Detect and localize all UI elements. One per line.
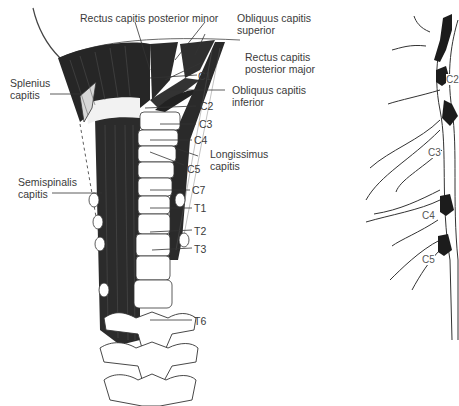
label-splenius-capitis-line1: Splenius [10, 77, 50, 89]
label-rectus-capitis-posterior-major-line1: Rectus capitis [245, 51, 310, 63]
label-longissimus-capitis-line1: Longissimus [210, 148, 268, 160]
label-obliquus-capitis-inferior-line2: inferior [232, 96, 264, 108]
label-rectus-capitis-posterior-major-line2: posterior major [245, 63, 315, 75]
label-c2: C2 [200, 100, 213, 112]
label-rectus-capitis-posterior-minor: Rectus capitis posterior minor [80, 12, 218, 24]
label-c3: C3 [199, 118, 212, 130]
label-nerve-c3: C3 [428, 147, 441, 158]
label-t6: T6 [194, 315, 206, 327]
label-nerve-c4: C4 [422, 210, 435, 221]
label-obliquus-capitis-superior-line1: Obliquus capitis [237, 12, 311, 24]
label-semispinalis-capitis-line2: capitis [18, 188, 48, 200]
label-t1: T1 [194, 202, 206, 214]
label-longissimus-capitis-line2: capitis [210, 160, 240, 172]
label-obliquus-capitis-superior-line2: superior [237, 24, 275, 36]
label-t2: T2 [194, 225, 206, 237]
label-nerve-c5: C5 [422, 254, 435, 265]
label-nerve-c2: C2 [446, 74, 459, 85]
label-t3: T3 [194, 243, 206, 255]
label-semispinalis-capitis-line1: Semispinalis [18, 176, 77, 188]
label-c7: C7 [192, 184, 205, 196]
label-splenius-capitis-line2: capitis [10, 89, 40, 101]
label-obliquus-capitis-inferior-line1: Obliquus capitis [232, 84, 306, 96]
posterior-neck-anatomy-illustration [0, 0, 459, 406]
label-c4: C4 [194, 134, 207, 146]
label-c1: C1 [198, 70, 211, 82]
label-c5: C5 [187, 163, 200, 175]
